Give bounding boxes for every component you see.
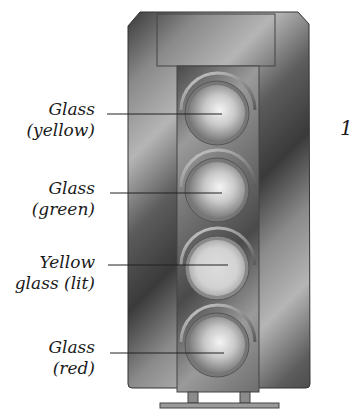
- label-line: (green): [32, 199, 95, 220]
- mount-post-right: [240, 392, 250, 403]
- label-glass-green: Glass (green): [32, 178, 95, 220]
- label-line: Yellow: [15, 252, 95, 273]
- label-line: Glass: [32, 178, 95, 199]
- label-line: glass (lit): [15, 273, 95, 294]
- label-line: (yellow): [26, 120, 95, 141]
- label-glass-yellow: Glass (yellow): [26, 99, 95, 141]
- label-yellow-glass-lit: Yellow glass (lit): [15, 252, 95, 294]
- clipped-edge-label: 1: [340, 116, 350, 140]
- label-line: (red): [48, 358, 95, 379]
- label-line: Glass: [26, 99, 95, 120]
- traffic-signal-diagram: Glass (yellow) Glass (green) Yellow glas…: [0, 0, 350, 416]
- label-line: Glass: [48, 337, 95, 358]
- mount-base-bar: [160, 403, 279, 408]
- mount-post-left: [188, 392, 198, 403]
- label-glass-red: Glass (red): [48, 337, 95, 379]
